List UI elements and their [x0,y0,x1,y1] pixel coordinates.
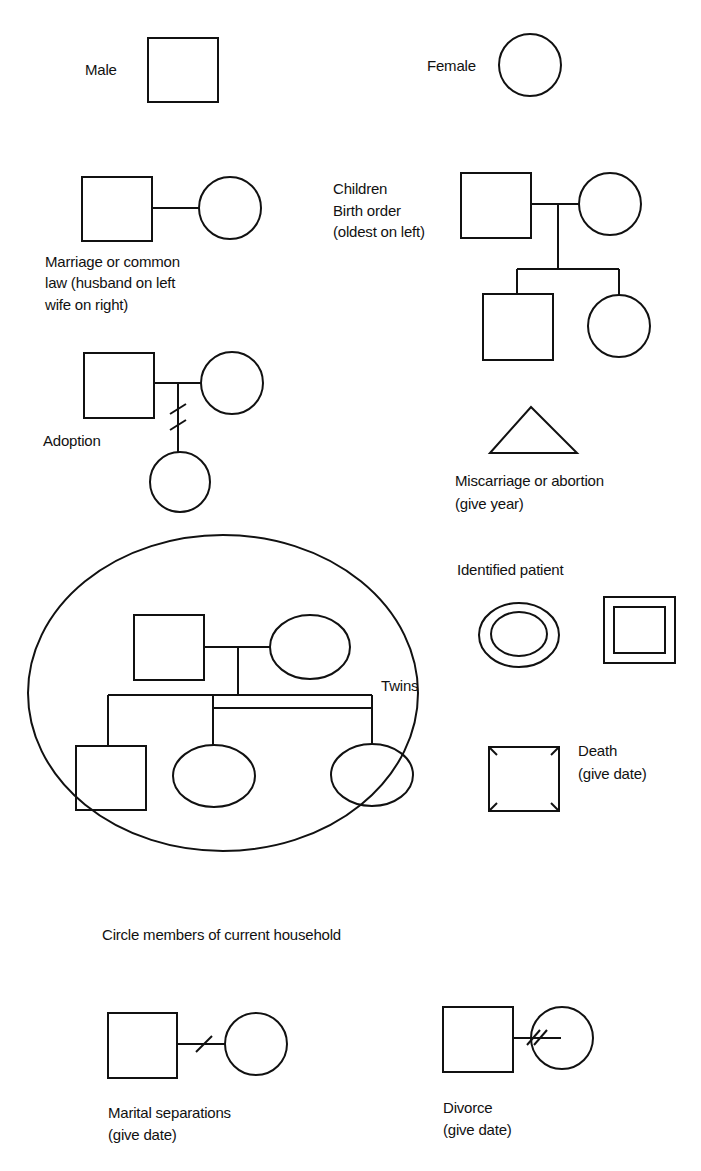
separation-symbol [108,1013,287,1078]
label-separation-line2: (give date) [108,1124,177,1146]
children-symbol [461,173,650,360]
miscarriage-triangle-icon [490,407,577,453]
death-symbol [489,747,559,811]
label-divorce-line1: Divorce [443,1097,492,1119]
label-children-line2: Birth order [333,200,401,222]
genogram-legend-canvas [0,0,701,1171]
female-circle-icon [499,34,561,96]
household-symbol [28,535,418,851]
divorce-symbol [443,1007,593,1072]
label-identified-patient: Identified patient [457,559,563,581]
label-adoption: Adoption [43,430,101,452]
label-separation-line1: Marital separations [108,1102,231,1124]
label-children-line1: Children [333,178,387,200]
label-marriage-line2: law (husband on left [45,272,175,294]
label-twins: Twins [381,675,418,697]
label-marriage-line3: wife on right) [45,294,128,316]
marriage-symbol [82,177,261,241]
label-divorce-line2: (give date) [443,1119,512,1141]
adoption-symbol [84,352,263,512]
label-death-line2: (give date) [578,763,647,785]
label-household: Circle members of current household [102,924,341,946]
label-children-line3: (oldest on left) [333,221,425,243]
label-marriage-line1: Marriage or common [45,251,180,273]
male-square-icon [148,38,218,102]
label-miscarriage-line2: (give year) [455,493,524,515]
label-death-line1: Death [578,740,617,762]
identified-patient-symbols [479,597,675,667]
label-miscarriage-line1: Miscarriage or abortion [455,470,604,492]
label-female: Female [427,55,476,77]
label-male: Male [85,59,117,81]
